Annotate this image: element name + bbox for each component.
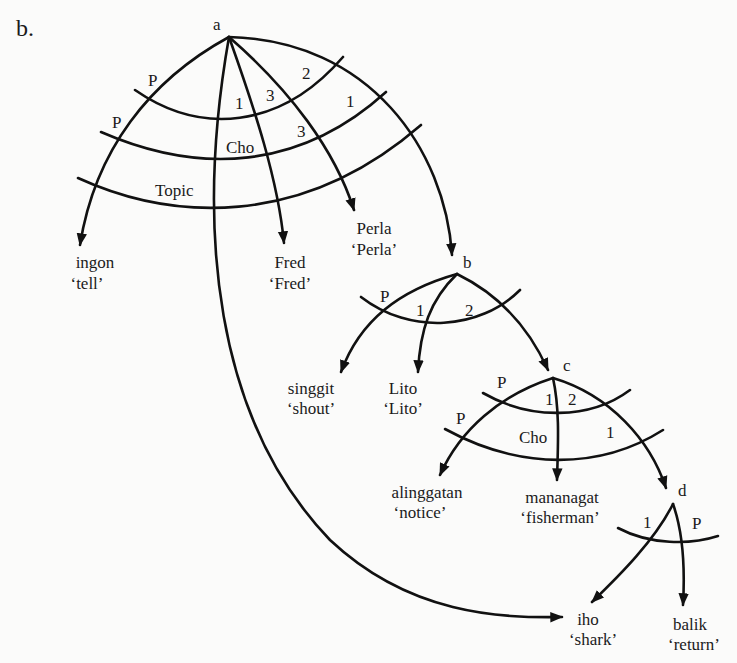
arc-label: 1 [643, 513, 652, 532]
arc-label: P [112, 113, 121, 132]
leaf-gloss: ‘Lito’ [383, 399, 423, 418]
leaf-word: balik [673, 615, 707, 634]
node-c-label: c [563, 356, 571, 375]
arc-label: P [456, 409, 465, 428]
arc-d-balik [673, 504, 684, 605]
arc-label: P [380, 287, 389, 306]
diagram-canvas: b. a P P 1 3 2 1 3 Cho Topic ingon ‘tell… [0, 0, 737, 663]
arc-label: P [692, 514, 701, 533]
arc-label: 1 [346, 92, 355, 111]
arc-label: Cho [519, 428, 547, 447]
leaf-word: singgit [288, 379, 335, 398]
leaf-gloss: ‘shark’ [569, 630, 617, 649]
leaf-word: Lito [389, 379, 417, 398]
arc-a-iho-topic [214, 37, 562, 617]
arc-label: 3 [297, 122, 306, 141]
pair-arc-c-2 [445, 429, 663, 460]
leaf-word: Perla [357, 219, 392, 238]
arc-b-c [457, 274, 548, 370]
arc-label: 2 [465, 301, 474, 320]
pair-arc-d [618, 528, 718, 542]
leaf-word: Fred [274, 253, 306, 272]
arc-label: 2 [302, 64, 311, 83]
arc-pair-diagram: b. a P P 1 3 2 1 3 Cho Topic ingon ‘tell… [0, 0, 737, 663]
arc-label: 1 [606, 423, 615, 442]
leaf-gloss: ‘shout’ [287, 399, 335, 418]
leaf-gloss: ‘Fred’ [269, 274, 311, 293]
leaf-word: alinggatan [392, 483, 463, 502]
arc-d-iho [592, 504, 673, 602]
arc-label: P [497, 373, 506, 392]
leaf-word: iho [577, 610, 599, 629]
arc-a-ingon [80, 37, 229, 245]
figure-label: b. [16, 15, 34, 41]
arc-c-mananagat [553, 378, 558, 480]
leaf-gloss: ‘notice’ [394, 503, 447, 522]
node-a-arcs [80, 37, 562, 617]
node-d-label: d [678, 481, 687, 500]
arc-label: 2 [568, 390, 577, 409]
leaf-gloss: ‘tell’ [70, 274, 103, 293]
arc-label: 1 [416, 301, 425, 320]
leaf-word: mananagat [525, 488, 599, 507]
node-a-label: a [213, 15, 221, 34]
node-b-label: b [463, 253, 472, 272]
leaf-gloss: ‘fisherman’ [520, 508, 599, 527]
arc-label: P [148, 71, 157, 90]
leaf-gloss: ‘Perla’ [351, 240, 397, 259]
arc-label: Topic [155, 181, 194, 200]
arc-label: 1 [235, 94, 244, 113]
arc-label: 1 [545, 390, 554, 409]
leaf-word: ingon [76, 253, 115, 272]
arc-label: 3 [266, 86, 275, 105]
leaf-gloss: ‘return’ [668, 635, 720, 654]
arc-label: Cho [226, 138, 254, 157]
